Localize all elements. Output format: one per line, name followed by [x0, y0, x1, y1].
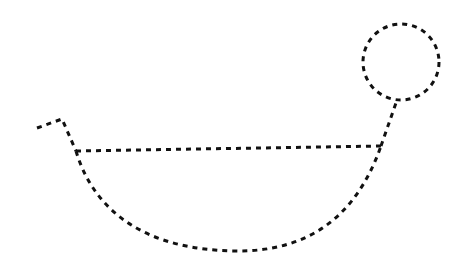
neck-line: [381, 100, 397, 146]
rim-line: [76, 146, 381, 151]
dashed-sketch: [0, 0, 472, 279]
bowl-arc: [76, 146, 381, 251]
head-circle: [363, 24, 439, 100]
tail-stroke: [37, 119, 76, 151]
diagram-canvas: [0, 0, 472, 279]
